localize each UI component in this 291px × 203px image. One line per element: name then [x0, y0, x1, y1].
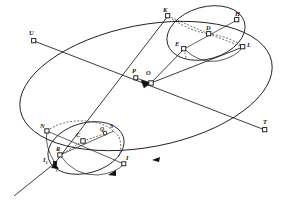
- label-R: R: [56, 146, 60, 152]
- marker-N[interactable]: [45, 129, 49, 133]
- label-C: C: [76, 132, 80, 138]
- label-T: T: [263, 119, 267, 125]
- label-N: N: [40, 123, 45, 129]
- dashed-D-L: [209, 34, 243, 47]
- marker-T[interactable]: [263, 128, 267, 132]
- marker-U[interactable]: [32, 39, 36, 43]
- marker-O[interactable]: [149, 81, 153, 85]
- label-H: H: [235, 11, 240, 17]
- label-Q: Q: [100, 127, 104, 133]
- axis-line-K-R: [55, 16, 168, 163]
- ray-lower-left: [14, 163, 55, 196]
- label-I: I: [126, 155, 129, 161]
- marker-E[interactable]: [182, 47, 186, 51]
- label-D: D: [206, 25, 211, 31]
- point-markers: [32, 14, 267, 166]
- dashed-K-D: [168, 16, 209, 34]
- lower-dashed-arc-right: [118, 137, 121, 158]
- marker-P[interactable]: [134, 76, 138, 80]
- upper-disk-lower-arc: [184, 47, 243, 62]
- marker-L[interactable]: [241, 45, 245, 49]
- marker-I1[interactable]: [53, 161, 56, 164]
- orbital-diagram-figure: K H D E L U P O T N C Q S R I I1: [0, 0, 291, 203]
- label-U: U: [29, 30, 34, 36]
- label-S: S: [110, 124, 113, 130]
- label-O: O: [146, 70, 151, 76]
- label-P: P: [132, 68, 136, 74]
- label-E: E: [175, 41, 179, 47]
- dashed-connectors: [55, 16, 243, 172]
- axis-line-E-O: [151, 49, 184, 83]
- dashed-R-C: [60, 141, 83, 155]
- marker-R[interactable]: [58, 153, 62, 157]
- label-I1-subscript: 1: [46, 160, 48, 165]
- label-L: L: [247, 42, 251, 48]
- diagram-canvas: [0, 0, 291, 203]
- marker-C[interactable]: [81, 139, 85, 143]
- label-I1: I1: [43, 157, 48, 166]
- marker-D[interactable]: [207, 32, 211, 36]
- marker-I[interactable]: [122, 162, 126, 166]
- marker-K[interactable]: [166, 14, 170, 18]
- axis-line-O-L: [151, 47, 243, 83]
- orbit-direction-arrow: [152, 157, 160, 162]
- label-K: K: [163, 7, 167, 13]
- axis-lines: [14, 16, 265, 196]
- marker-H[interactable]: [235, 18, 239, 22]
